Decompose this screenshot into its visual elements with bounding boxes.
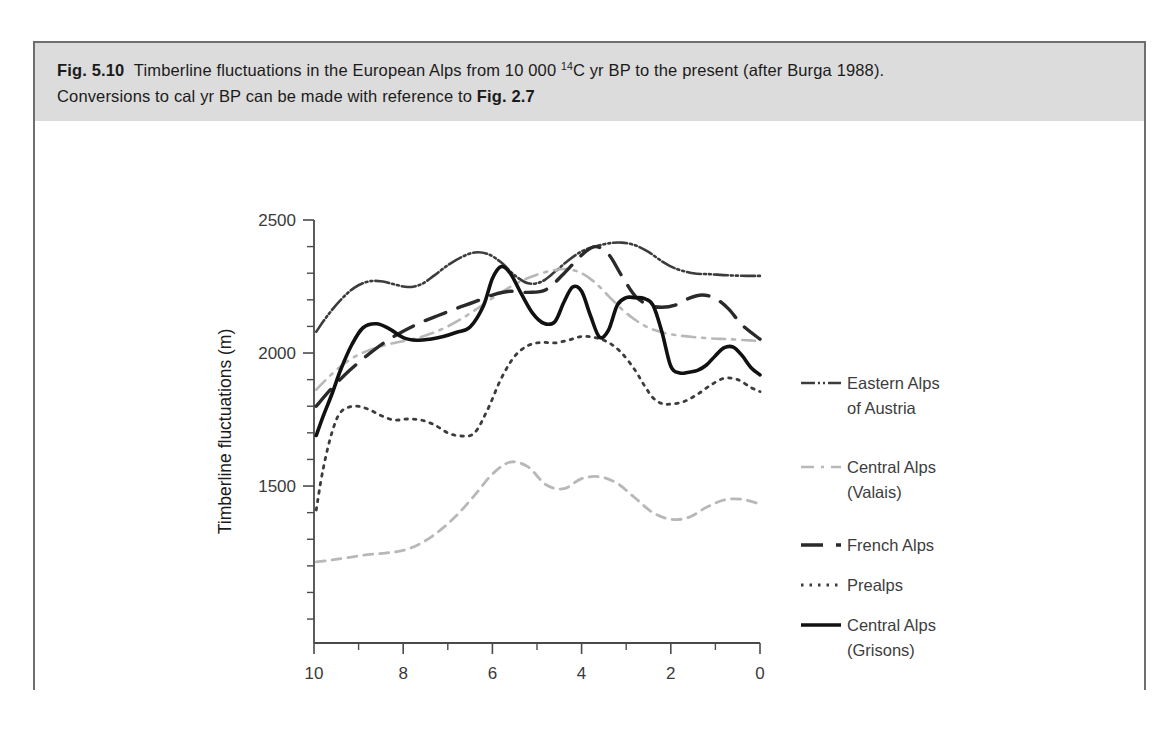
figure-page: Fig. 5.10 Timberline fluctuations in the… — [0, 0, 1174, 731]
caption-text-2a: Conversions to cal yr BP can be made wit… — [57, 87, 477, 105]
caption-text-1b: C yr BP to the present (after Burga 1988… — [573, 61, 884, 79]
plot-area: 2500200015001086420 Eastern Alpsof Austr… — [35, 121, 1144, 690]
legend-item-label[interactable]: Central Alps — [847, 616, 936, 634]
series-line-prealps — [316, 336, 760, 510]
legend-item-label[interactable]: Prealps — [847, 576, 903, 594]
caption-line-1: Fig. 5.10 Timberline fluctuations in the… — [57, 57, 1122, 83]
legend-item-label-line2[interactable]: of Austria — [847, 399, 917, 417]
axes-group: 2500200015001086420 — [258, 211, 765, 683]
y-tick-label: 2000 — [258, 344, 296, 363]
x-tick-label: 8 — [398, 664, 407, 683]
x-tick-label: 4 — [577, 664, 586, 683]
legend-item-label[interactable]: Central Alps — [847, 458, 936, 476]
axis-titles-group: Timberline fluctuations (m)Age (103 year… — [215, 329, 598, 690]
y-axis-title: Timberline fluctuations (m) — [215, 329, 235, 535]
x-tick-label: 2 — [666, 664, 675, 683]
legend-item-label[interactable]: French Alps — [847, 536, 934, 554]
x-tick-label: 10 — [305, 664, 324, 683]
legend-item-label-line2[interactable]: (Grisons) — [847, 641, 915, 659]
figure-number: Fig. 5.10 — [57, 61, 124, 79]
x-tick-label: 0 — [755, 664, 764, 683]
timberline-line-chart: 2500200015001086420 Eastern Alpsof Austr… — [35, 121, 1144, 690]
caption-text-1a: Timberline fluctuations in the European … — [134, 61, 561, 79]
caption-line-2: Conversions to cal yr BP can be made wit… — [57, 83, 1122, 109]
series-group — [316, 243, 760, 562]
caption-superscript-14: 14 — [561, 60, 573, 72]
x-tick-label: 6 — [488, 664, 497, 683]
legend-item-label[interactable]: Eastern Alps — [847, 374, 940, 392]
y-tick-label: 2500 — [258, 211, 296, 230]
figure-caption-band: Fig. 5.10 Timberline fluctuations in the… — [35, 43, 1144, 121]
caption-figure-ref[interactable]: Fig. 2.7 — [477, 87, 535, 105]
figure-frame: Fig. 5.10 Timberline fluctuations in the… — [33, 41, 1146, 690]
y-tick-label: 1500 — [258, 477, 296, 496]
legend-group: Eastern Alpsof AustriaCentral Alps(Valai… — [801, 374, 940, 690]
legend-item-label-line2[interactable]: (Valais) — [847, 483, 902, 501]
series-line-jura — [316, 462, 760, 562]
